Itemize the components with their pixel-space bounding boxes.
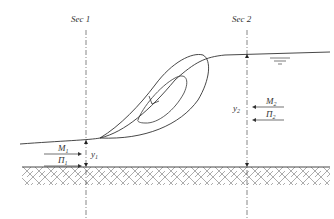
free-surface-symbol-icon [270, 58, 290, 64]
m2-symbol: M [266, 96, 274, 106]
p1-subscript: 1 [65, 160, 68, 166]
y1-subscript: 1 [95, 154, 98, 160]
m1-subscript: 1 [66, 148, 69, 154]
m2-label: M2 [266, 97, 277, 107]
p1-label: Π1 [58, 156, 68, 166]
y2-label: y2 [233, 104, 240, 114]
y1-label: y1 [91, 150, 98, 160]
roller-inner-loop [138, 76, 187, 123]
section-1-label: Sec 1 [71, 15, 90, 24]
hydraulic-jump-diagram [0, 0, 334, 219]
p2-label: Π2 [266, 110, 276, 120]
m2-subscript: 2 [274, 101, 277, 107]
water-surface-profile [20, 52, 330, 144]
p2-subscript: 2 [273, 114, 276, 120]
ground-bed [22, 167, 330, 185]
m1-label: M1 [58, 144, 69, 154]
m1-symbol: M [58, 143, 66, 153]
roller-outer-loop [100, 54, 209, 138]
y2-subscript: 2 [237, 108, 240, 114]
section-2-label: Sec 2 [232, 15, 251, 24]
